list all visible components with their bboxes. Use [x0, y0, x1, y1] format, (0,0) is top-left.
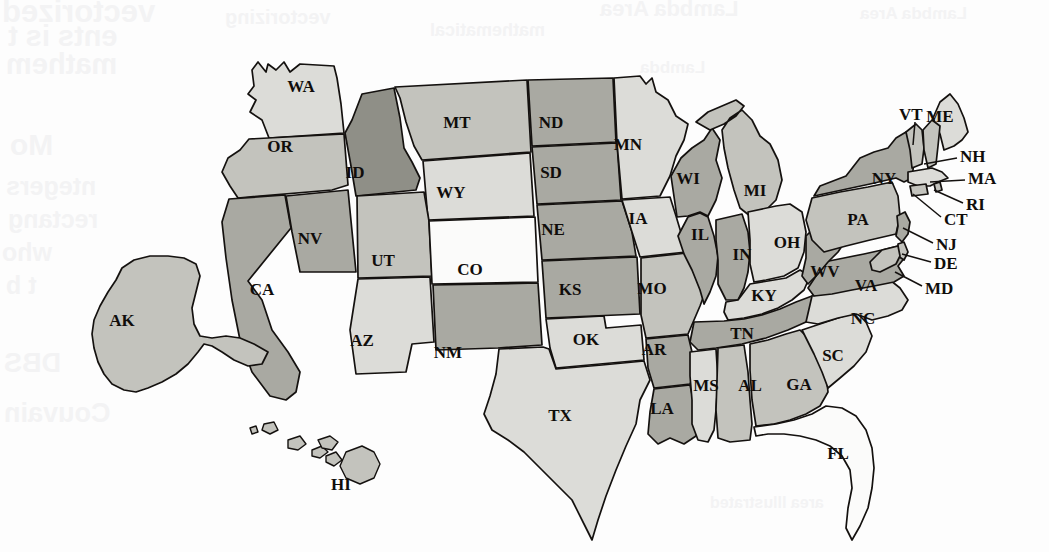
state-label-az: AZ — [350, 331, 374, 350]
leader-line-de — [902, 254, 931, 262]
state-label-sd: SD — [540, 163, 562, 182]
state-label-ky: KY — [751, 286, 777, 305]
leader-line-ri — [934, 190, 963, 203]
state-label-in: IN — [733, 245, 753, 264]
state-label-nj: NJ — [936, 235, 957, 254]
state-label-ne: NE — [541, 220, 565, 239]
state-shape-ks[interactable] — [542, 257, 640, 318]
state-label-or: OR — [267, 137, 293, 156]
state-label-ct: CT — [944, 210, 968, 229]
state-shape-wa[interactable] — [248, 62, 344, 138]
state-label-il: IL — [691, 225, 709, 244]
state-shape-nm[interactable] — [433, 283, 542, 350]
state-label-vt: VT — [899, 105, 923, 124]
state-label-id: ID — [346, 163, 365, 182]
state-shapes-layer — [92, 62, 968, 540]
state-label-co: CO — [457, 260, 483, 279]
state-label-pa: PA — [847, 210, 869, 229]
state-shape-fl[interactable] — [754, 406, 874, 540]
state-label-ga: GA — [786, 375, 812, 394]
state-label-nm: NM — [434, 343, 462, 362]
state-label-ak: AK — [109, 311, 135, 330]
state-label-oh: OH — [774, 233, 800, 252]
state-shape-co[interactable] — [429, 217, 538, 284]
state-label-me: ME — [926, 107, 953, 126]
state-label-fl: FL — [827, 444, 849, 463]
state-label-nv: NV — [298, 229, 323, 248]
state-shape-ny[interactable] — [814, 132, 914, 196]
state-label-ks: KS — [559, 280, 582, 299]
state-label-ny: NY — [872, 169, 897, 188]
state-shape-tx[interactable] — [484, 347, 650, 540]
state-label-ok: OK — [573, 330, 600, 349]
state-label-ca: CA — [250, 280, 275, 299]
state-label-de: DE — [934, 254, 958, 273]
state-label-wy: WY — [436, 183, 465, 202]
state-label-hi: HI — [331, 475, 351, 494]
state-label-wv: WV — [810, 262, 840, 281]
state-shape-ms[interactable] — [690, 349, 718, 442]
state-shape-ma[interactable] — [908, 168, 948, 186]
state-shape-nj[interactable] — [896, 212, 910, 242]
state-label-ut: UT — [371, 251, 395, 270]
state-label-ia: IA — [629, 209, 649, 228]
leader-line-ct — [913, 194, 941, 217]
state-label-md: MD — [925, 279, 953, 298]
state-label-ma: MA — [968, 169, 997, 188]
state-label-nd: ND — [539, 113, 564, 132]
us-states-map: WAORCANVIDMTWYUTAZCONMNDSDNEKSOKTXMNIAMO… — [0, 0, 1049, 552]
state-label-ri: RI — [966, 195, 985, 214]
state-shape-ct[interactable] — [910, 184, 928, 196]
state-label-ms: MS — [693, 376, 719, 395]
state-label-nc: NC — [851, 309, 876, 328]
state-label-ar: AR — [642, 340, 667, 359]
state-label-tn: TN — [730, 324, 754, 343]
state-label-mt: MT — [443, 113, 471, 132]
state-label-al: AL — [738, 376, 762, 395]
state-label-nh: NH — [960, 147, 986, 166]
state-label-wa: WA — [287, 77, 315, 96]
state-label-mn: MN — [614, 135, 643, 154]
state-label-tx: TX — [548, 406, 572, 425]
state-shape-hi[interactable] — [262, 422, 278, 434]
state-shape-az[interactable] — [350, 277, 434, 374]
state-label-la: LA — [650, 399, 674, 418]
state-label-mo: MO — [637, 279, 666, 298]
state-shape-hi[interactable] — [250, 426, 258, 434]
state-label-va: VA — [855, 276, 878, 295]
state-label-wi: WI — [676, 169, 700, 188]
state-shape-hi[interactable] — [326, 452, 342, 466]
state-label-mi: MI — [744, 181, 767, 200]
state-shape-hi[interactable] — [288, 436, 306, 450]
us-map-figure: vectorized ents is t mathem Mo ntegers r… — [0, 0, 1049, 552]
state-label-sc: SC — [822, 346, 844, 365]
